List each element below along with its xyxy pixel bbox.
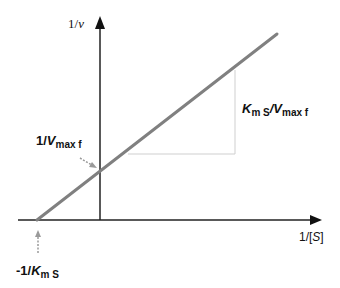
x-axis-arrow-icon <box>310 215 322 225</box>
y-intercept-label: 1/Vmax f <box>36 133 82 150</box>
y-axis-label-prefix: 1/ <box>68 16 78 31</box>
slope-label-sub1: m S <box>251 107 269 118</box>
slope-label-var2: V <box>273 101 282 116</box>
y-intercept-label-prefix: 1/ <box>36 133 47 148</box>
slope-label-var1: K <box>242 101 251 116</box>
y-axis-label-var: ν <box>78 16 84 31</box>
reciprocal-line <box>37 34 277 220</box>
x-intercept-label-sub: m S <box>41 269 59 280</box>
y-axis-label: 1/ν <box>68 16 84 32</box>
x-intercept-label-prefix: -1/ <box>16 263 31 278</box>
y-intercept-label-sub: max f <box>56 139 82 150</box>
y-axis-arrow-icon <box>95 16 105 29</box>
y-intercept-pointer-head-icon <box>89 162 97 168</box>
slope-label: Km S/Vmax f <box>242 101 308 118</box>
y-intercept-label-var: V <box>47 133 56 148</box>
x-intercept-pointer-head-icon <box>35 230 41 237</box>
x-intercept-label: -1/Km S <box>16 263 59 280</box>
x-axis-label-suffix: ] <box>320 230 323 244</box>
slope-label-sub2: max f <box>282 107 308 118</box>
x-intercept-label-var: K <box>31 263 40 278</box>
x-axis-label: 1/[S] <box>299 230 324 244</box>
x-axis-label-prefix: 1/[ <box>299 230 312 244</box>
